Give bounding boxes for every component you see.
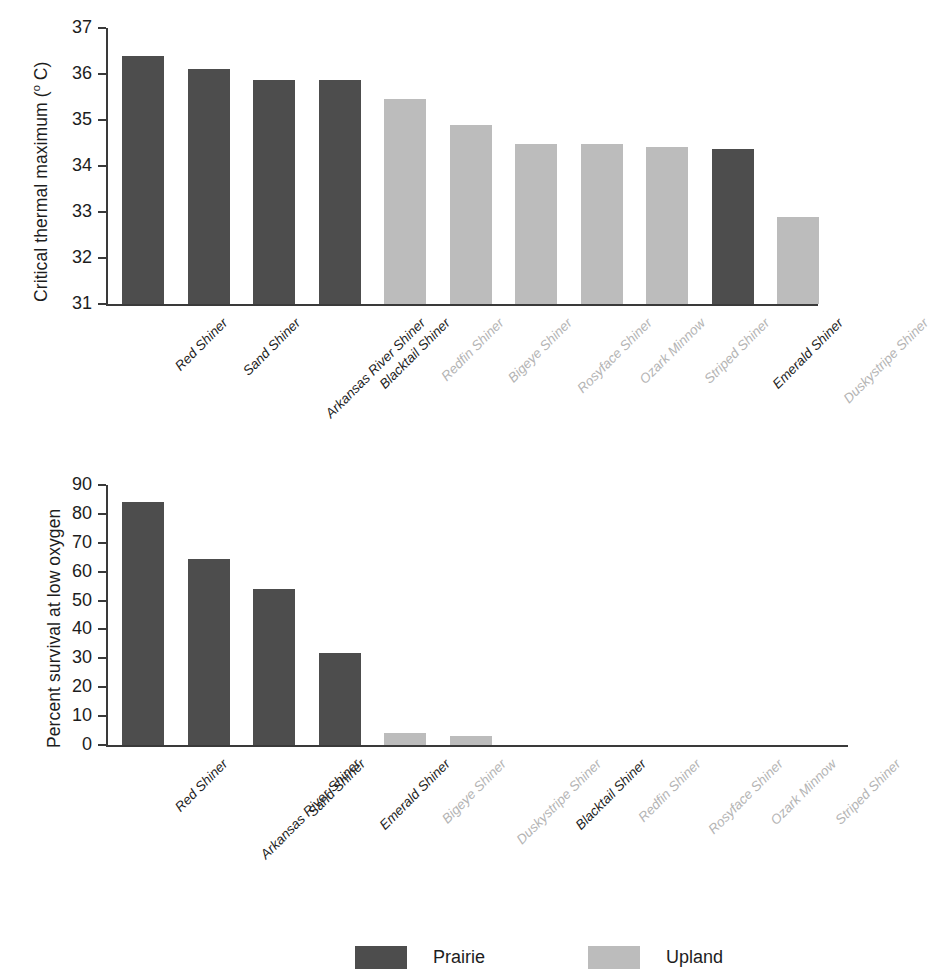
- legend-label-upland: Upland: [666, 947, 723, 968]
- y-axis-tick-label: 0: [52, 735, 92, 753]
- bar: [450, 125, 492, 304]
- y-axis-tick: [98, 542, 106, 544]
- bar: [515, 144, 557, 304]
- y-axis-tick-label: 10: [52, 706, 92, 724]
- legend-label-prairie: Prairie: [433, 947, 485, 968]
- x-axis-line: [106, 304, 818, 306]
- y-axis-tick: [98, 657, 106, 659]
- x-axis-category-label: Sand Shiner: [240, 316, 302, 378]
- bar: [712, 149, 754, 304]
- panel-percent-survival: Percent survival at low oxygen 908070605…: [0, 460, 855, 953]
- bar: [646, 147, 688, 304]
- y-axis-title-thermal: Critical thermal maximum (o C): [30, 61, 52, 302]
- y-axis-tick: [98, 484, 106, 486]
- y-axis-tick: [98, 571, 106, 573]
- bar: [319, 653, 361, 745]
- bar: [253, 80, 295, 304]
- y-axis-tick-label: 20: [52, 677, 92, 695]
- y-axis-tick: [98, 211, 106, 213]
- x-axis-line: [106, 745, 848, 747]
- y-axis-tick: [98, 165, 106, 167]
- y-axis-tick-label: 34: [52, 156, 92, 174]
- plot-area-survival: 9080706050403020100Red ShinerArkansas Ri…: [106, 485, 818, 745]
- bar: [188, 69, 230, 304]
- bar: [384, 99, 426, 304]
- bar: [122, 502, 164, 745]
- x-axis-category-label: Striped Shiner: [833, 757, 903, 827]
- y-axis-tick-label: 36: [52, 64, 92, 82]
- y-axis-tick-label: 80: [52, 504, 92, 522]
- y-axis-tick: [98, 513, 106, 515]
- bar: [319, 80, 361, 304]
- y-axis-tick: [98, 303, 106, 305]
- y-axis-tick-label: 32: [52, 248, 92, 266]
- y-axis-tick-label: 40: [52, 619, 92, 637]
- x-axis-category-label: Emerald Shiner: [377, 757, 452, 832]
- y-axis-title-thermal-text: Critical thermal maximum (: [31, 91, 51, 302]
- x-axis-category-label: Duskystripe Shiner: [514, 757, 604, 847]
- y-axis-tick-label: 31: [52, 294, 92, 312]
- legend-swatch-prairie-icon: [355, 946, 407, 969]
- y-axis-line: [106, 485, 108, 745]
- y-axis-tick: [98, 27, 106, 29]
- y-axis-line: [106, 28, 108, 304]
- x-axis-category-label: Duskystripe Shiner: [841, 316, 931, 406]
- y-axis-tick: [98, 257, 106, 259]
- y-axis-tick-label: 33: [52, 202, 92, 220]
- x-axis-category-label: Striped Shiner: [702, 316, 772, 386]
- x-axis-category-label: Sand Shiner: [306, 757, 368, 819]
- bar: [253, 589, 295, 745]
- x-axis-category-label: Emerald Shiner: [770, 316, 845, 391]
- x-axis-category-label: Bigeye Shiner: [505, 316, 574, 385]
- y-axis-tick-label: 70: [52, 533, 92, 551]
- bar: [581, 144, 623, 304]
- y-axis-tick: [98, 73, 106, 75]
- legend-entry-upland: Upland: [588, 946, 723, 969]
- legend-entry-prairie: Prairie: [355, 946, 485, 969]
- y-axis-tick-label: 35: [52, 110, 92, 128]
- bar: [384, 733, 426, 745]
- y-axis-tick: [98, 600, 106, 602]
- y-axis-tick-label: 50: [52, 591, 92, 609]
- y-axis-tick-label: 90: [52, 475, 92, 493]
- y-axis-tick: [98, 119, 106, 121]
- x-axis-category-label: Rosyface Shiner: [575, 316, 655, 396]
- bar: [188, 559, 230, 745]
- y-axis-tick: [98, 744, 106, 746]
- y-axis-tick: [98, 715, 106, 717]
- x-axis-category-label: Arkansas River Shiner: [323, 316, 428, 421]
- x-axis-category-label: Rosyface Shiner: [706, 757, 786, 837]
- y-axis-tick: [98, 686, 106, 688]
- bar: [450, 736, 492, 745]
- y-axis-tick-label: 30: [52, 648, 92, 666]
- y-axis-tick: [98, 628, 106, 630]
- y-axis-title-thermal-suffix: C): [31, 61, 51, 85]
- y-axis-tick-label: 60: [52, 562, 92, 580]
- x-axis-category-label: Red Shiner: [173, 757, 230, 814]
- bar: [777, 217, 819, 304]
- legend-swatch-upland-icon: [588, 946, 640, 969]
- bar: [122, 56, 164, 304]
- degree-symbol-icon: o: [30, 85, 42, 91]
- x-axis-category-label: Red Shiner: [173, 316, 230, 373]
- plot-area-thermal: 37363534333231Red ShinerSand ShinerArkan…: [106, 28, 818, 304]
- panel-thermal-maximum: Critical thermal maximum (o C) 373635343…: [0, 0, 855, 460]
- y-axis-tick-label: 37: [52, 18, 92, 36]
